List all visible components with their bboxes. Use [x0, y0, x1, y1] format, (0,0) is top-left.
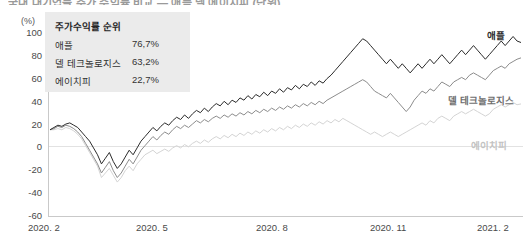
y-tick-0: 0	[8, 142, 42, 151]
x-tick-2021-02: 2021. 2	[477, 222, 509, 233]
y-tick-40: 40	[8, 97, 42, 106]
callout-row-value-0: 76,7%	[132, 38, 159, 49]
x-tick-2020-05: 2020. 5	[136, 222, 168, 233]
y-tick-20: 20	[8, 120, 42, 129]
y-tick-100: 100	[8, 28, 42, 37]
series-label-apple: 애플	[487, 28, 505, 42]
y-tick-neg60: -60	[8, 211, 42, 220]
y-axis-unit-label: (%)	[21, 16, 35, 26]
callout-tail	[168, 12, 190, 34]
callout-row-value-2: 22,7%	[132, 74, 159, 85]
callout-row-name-0: 애플	[55, 38, 73, 52]
y-tick-80: 80	[8, 51, 42, 60]
x-tick-2020-08: 2020. 8	[256, 222, 288, 233]
series-label-dell: 델 테크놀로지스	[448, 93, 514, 107]
series-label-hp: 에이치피	[471, 138, 507, 152]
y-tick-neg40: -40	[8, 188, 42, 197]
callout-row-name-1: 델 테크놀로지스	[55, 56, 121, 70]
hp-line	[50, 102, 521, 182]
chart-headline: 국내 대기업들 주가 수익률 비교 — 애플 델 에이치피 (단위)	[8, 0, 438, 5]
callout-row-value-1: 63,2%	[132, 56, 159, 67]
x-tick-2020-02: 2020. 2	[28, 222, 60, 233]
stock-return-chart: 국내 대기업들 주가 수익률 비교 — 애플 델 에이치피 (단위) (%) 1…	[0, 0, 526, 248]
x-tick-2020-11: 2020. 11	[370, 222, 406, 233]
y-tick-60: 60	[8, 74, 42, 83]
x-axis-line	[48, 216, 523, 217]
callout-title: 주가수익률 순위	[55, 19, 121, 33]
y-tick-neg20: -20	[8, 165, 42, 174]
callout-row-name-2: 에이치피	[55, 74, 91, 88]
